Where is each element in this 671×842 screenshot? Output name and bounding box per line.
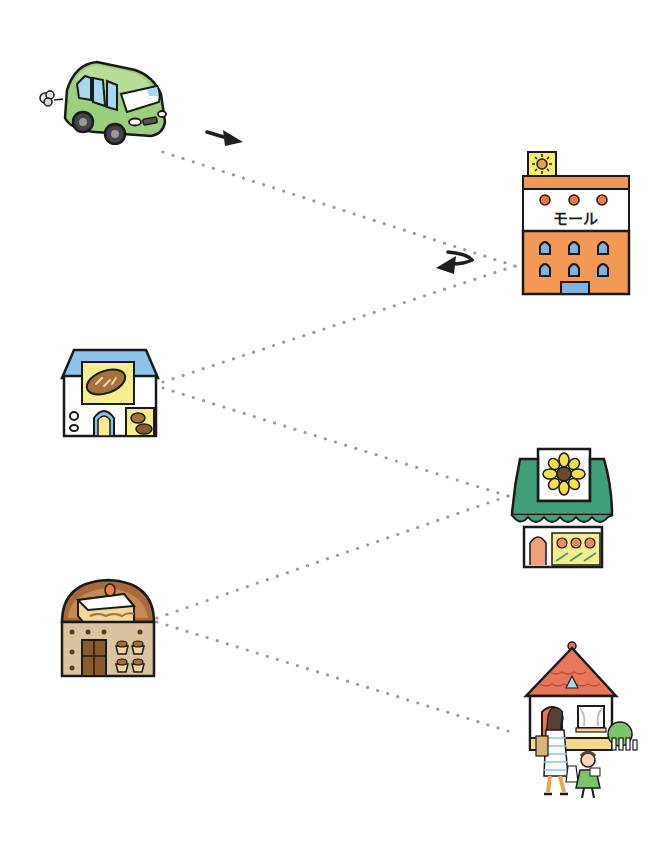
route-edge-flower_shop-to-cake_shop <box>155 494 509 619</box>
direction-arrow-right-icon <box>205 126 245 150</box>
direction-arrow-uturn-icon <box>434 248 476 276</box>
route-edge-mall-to-bakery <box>161 264 516 383</box>
bakery-icon <box>60 348 160 440</box>
cake-shop-icon <box>58 572 158 680</box>
mall-sign-text: モール <box>553 210 598 228</box>
route-diagram: モール <box>0 0 671 842</box>
mall-building-icon: モール <box>520 150 635 300</box>
route-edge-bakery-to-flower_shop <box>161 386 509 497</box>
route-edge-cake_shop-to-home <box>155 620 509 732</box>
flower-shop-icon <box>510 447 615 572</box>
house-with-family-icon <box>520 638 640 803</box>
car-icon <box>35 50 170 145</box>
exhaust-puff-icon <box>40 91 63 106</box>
